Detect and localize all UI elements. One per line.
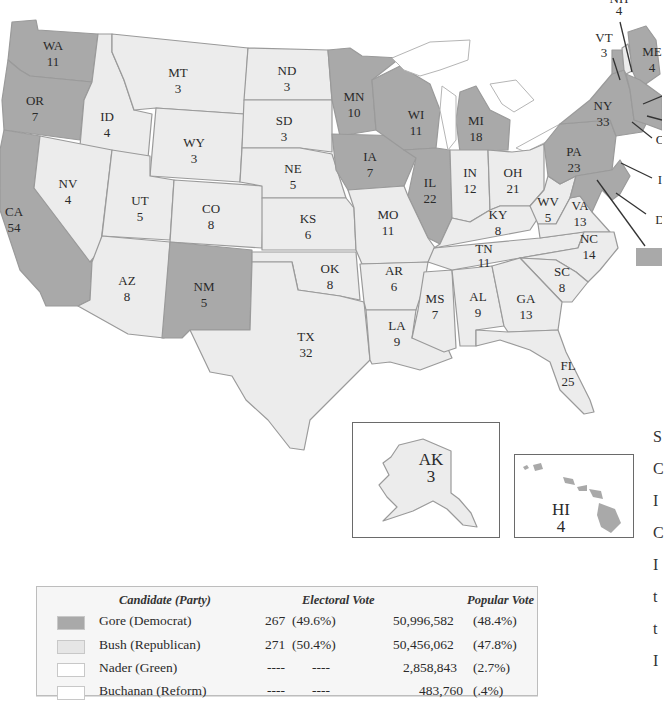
svg-text:FL25: FL25 [560, 358, 575, 389]
legend-candidate: Buchanan (Reform) [99, 683, 207, 699]
side-text: I [653, 492, 658, 510]
legend-ev: 267 [265, 613, 285, 629]
side-text: S [653, 428, 662, 446]
state-hi[interactable] [523, 463, 621, 533]
side-text: I [653, 556, 658, 574]
legend-row-nader: Nader (Green) ---- ---- 2,858,843 (2.7%) [37, 660, 537, 680]
svg-text:NH4: NH4 [610, 0, 629, 18]
svg-text:C: C [656, 132, 662, 147]
legend-header-popular: Popular Vote [467, 593, 534, 608]
legend-swatch-bush [57, 640, 85, 654]
svg-text:MI18: MI18 [468, 113, 484, 144]
legend-swatch-nader [57, 663, 85, 677]
legend-ev-pct: (49.6%) [292, 613, 336, 629]
legend-pv-pct: (47.8%) [473, 637, 517, 653]
legend-pv: 50,456,062 [393, 637, 454, 653]
legend-ev-pct: ---- [312, 660, 330, 676]
legend-ev-pct: ---- [312, 683, 330, 699]
legend-candidate: Nader (Green) [99, 660, 177, 676]
svg-text:IN12: IN12 [463, 165, 477, 196]
side-text: I [653, 652, 658, 670]
svg-text:HI4: HI4 [552, 500, 570, 536]
legend-ev: ---- [267, 660, 285, 676]
svg-text:WI11: WI11 [408, 107, 425, 138]
side-text: t [653, 588, 657, 606]
legend-pv: 483,760 [419, 683, 463, 699]
legend-header-electoral: Electoral Vote [302, 593, 375, 608]
side-text: C [653, 460, 664, 478]
side-text: C [653, 524, 664, 542]
legend-candidate: Gore (Democrat) [99, 613, 192, 629]
svg-text:D: D [655, 212, 662, 227]
legend-header-candidate: Candidate (Party) [119, 593, 211, 608]
svg-text:NC14: NC14 [580, 231, 598, 262]
legend-swatch-gore [57, 616, 85, 630]
legend-row-bush: Bush (Republican) 271 (50.4%) 50,456,062… [37, 637, 537, 657]
legend-pv: 50,996,582 [393, 613, 454, 629]
legend-pv: 2,858,843 [403, 660, 457, 676]
legend-row-buchanan: Buchanan (Reform) ---- ---- 483,760 (.4%… [37, 683, 537, 702]
alaska-inset: AK3 [352, 422, 500, 538]
legend-pv-pct: (.4%) [473, 683, 503, 699]
legend-box: Candidate (Party) Electoral Vote Popular… [36, 586, 538, 696]
svg-text:I: I [658, 172, 662, 187]
svg-text:PA23: PA23 [566, 144, 582, 175]
legend-pv-pct: (2.7%) [473, 660, 510, 676]
legend-candidate: Bush (Republican) [99, 637, 201, 653]
lake-michigan [440, 86, 456, 150]
lake-huron [490, 80, 534, 112]
hawaii-inset: HI4 [514, 454, 634, 538]
legend-row-gore: Gore (Democrat) 267 (49.6%) 50,996,582 (… [37, 613, 537, 633]
legend-ev-pct: (50.4%) [292, 637, 336, 653]
legend-swatch-buchanan [57, 686, 85, 700]
dc-swatch [636, 248, 662, 266]
legend-ev: ---- [267, 683, 285, 699]
legend-pv-pct: (48.4%) [473, 613, 517, 629]
svg-text:VT3: VT3 [595, 30, 612, 60]
state-fl[interactable] [476, 330, 594, 414]
side-text: t [653, 620, 657, 638]
svg-text:IL22: IL22 [424, 175, 437, 206]
legend-ev: 271 [265, 637, 285, 653]
